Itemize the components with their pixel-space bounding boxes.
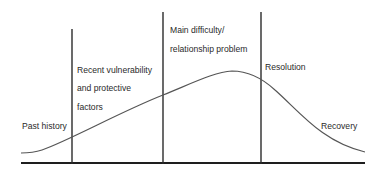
label-recent-vulnerability-1: Recent vulnerability [77,66,152,75]
label-main-difficulty-1: Main difficulty/ [170,26,224,35]
label-resolution: Resolution [265,63,306,72]
phase-diagram: Past history Recent vulnerability and pr… [0,0,382,176]
label-main-difficulty-2: relationship problem [170,45,247,54]
label-recent-vulnerability-2: and protective [77,84,131,93]
label-recent-vulnerability-3: factors [77,103,103,112]
label-recovery: Recovery [321,122,357,131]
label-past-history: Past history [22,122,67,131]
